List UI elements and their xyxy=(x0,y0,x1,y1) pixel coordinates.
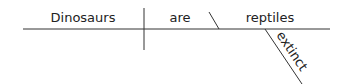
word-modifier: extinct xyxy=(274,28,311,73)
word-verb: are xyxy=(169,10,190,25)
word-subject: Dinosaurs xyxy=(51,10,116,25)
complement-slash xyxy=(209,12,219,29)
sentence-diagram: Dinosaurs are reptiles extinct xyxy=(0,0,343,84)
word-predicate-nominative: reptiles xyxy=(246,10,295,25)
